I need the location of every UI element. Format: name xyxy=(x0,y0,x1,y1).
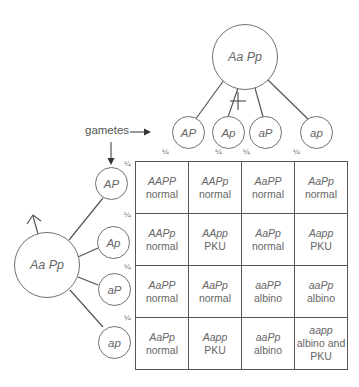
fraction-label: ¼ xyxy=(293,147,300,156)
female-gamete-AP: AP xyxy=(172,116,205,149)
grid-row: AAPpnormal AAppPKU AaPpnormal AappPKU xyxy=(136,214,348,266)
gametes-label: gametes xyxy=(85,124,129,136)
fraction-label: ¼ xyxy=(124,159,131,168)
grid-cell: AaPpnormal xyxy=(242,214,295,266)
male-parent-circle: Aa Pp xyxy=(14,232,80,298)
female-gamete-aP: aP xyxy=(249,116,282,149)
grid-cell: AaPpnormal xyxy=(295,162,348,214)
fraction-label: ¼ xyxy=(124,262,131,271)
grid-cell: AaPpnormal xyxy=(136,318,189,370)
fraction-label: ¼ xyxy=(215,147,222,156)
grid-cell: aappalbino and PKU xyxy=(295,318,348,370)
punnett-square: AAPPnormal AAPpnormal AaPPnormal AaPpnor… xyxy=(135,161,348,370)
grid-cell: aaPPalbino xyxy=(242,266,295,318)
male-gamete-ap: ap xyxy=(98,326,131,359)
grid-cell: AaPpnormal xyxy=(189,266,242,318)
fraction-label: ¼ xyxy=(162,147,169,156)
grid-cell: AAppPKU xyxy=(189,214,242,266)
fraction-label: ¼ xyxy=(124,313,131,322)
male-gamete-AP: AP xyxy=(95,167,128,200)
grid-cell: AappPKU xyxy=(189,318,242,370)
grid-row: AaPpnormal AappPKU aaPpalbino aappalbino… xyxy=(136,318,348,370)
grid-cell: AAPpnormal xyxy=(136,214,189,266)
fraction-label: ¼ xyxy=(243,147,250,156)
grid-row: AAPPnormal AAPpnormal AaPPnormal AaPpnor… xyxy=(136,162,348,214)
grid-cell: AaPPnormal xyxy=(242,162,295,214)
grid-cell: AAPpnormal xyxy=(189,162,242,214)
grid-cell: aaPpalbino xyxy=(295,266,348,318)
male-genotype: Aa Pp xyxy=(30,258,64,272)
grid-cell: AAPPnormal xyxy=(136,162,189,214)
male-gamete-aP: aP xyxy=(98,273,131,306)
female-genotype: Aa Pp xyxy=(228,50,262,64)
grid-cell: aaPpalbino xyxy=(242,318,295,370)
female-parent-circle: Aa Pp xyxy=(212,24,278,90)
grid-cell: AappPKU xyxy=(295,214,348,266)
male-gamete-Ap: Ap xyxy=(97,226,130,259)
female-gamete-Ap: Ap xyxy=(212,116,245,149)
grid-cell: AaPPnormal xyxy=(136,266,189,318)
fraction-label: ¼ xyxy=(124,210,131,219)
grid-row: AaPPnormal AaPpnormal aaPPalbino aaPpalb… xyxy=(136,266,348,318)
female-gamete-ap: ap xyxy=(300,116,333,149)
